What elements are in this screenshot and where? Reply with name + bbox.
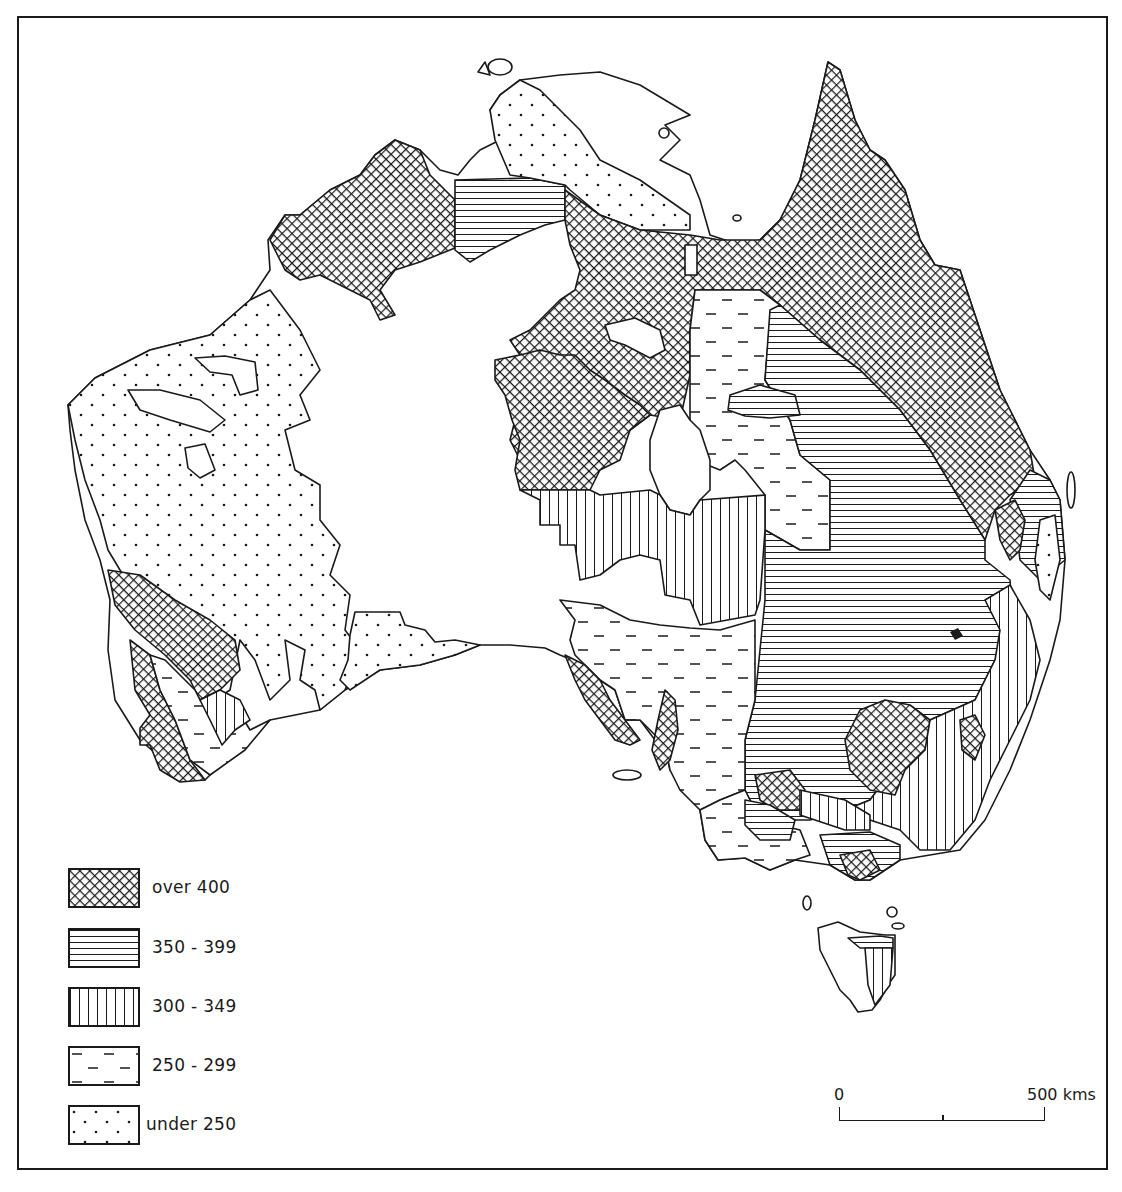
vertical-lines-swatch-icon — [68, 987, 140, 1027]
dashes-swatch-icon — [68, 1046, 140, 1086]
legend-label: 350 - 399 — [152, 937, 237, 957]
scale-bar: 0 500 kms — [830, 1085, 1070, 1125]
scale-end-label: 500 kms — [1027, 1085, 1096, 1104]
scale-line — [839, 1107, 1045, 1121]
legend-label: over 400 — [152, 877, 230, 897]
dots-swatch-icon — [68, 1105, 140, 1145]
legend-item-over-400: over 400 — [68, 868, 308, 908]
legend-label: 250 - 299 — [152, 1055, 237, 1075]
legend-item-under-250: under 250 — [68, 1105, 308, 1145]
legend-item-250-299: 250 - 299 — [68, 1046, 308, 1086]
legend-item-350-399: 350 - 399 — [68, 928, 308, 968]
legend-label: 300 - 349 — [152, 996, 237, 1016]
crosshatch-swatch-icon — [68, 868, 140, 908]
legend-item-300-349: 300 - 349 — [68, 987, 308, 1027]
legend-label: under 250 — [146, 1114, 236, 1134]
scale-start-label: 0 — [834, 1085, 844, 1104]
scale-mid-tick — [942, 1115, 944, 1121]
horizontal-lines-swatch-icon — [68, 928, 140, 968]
